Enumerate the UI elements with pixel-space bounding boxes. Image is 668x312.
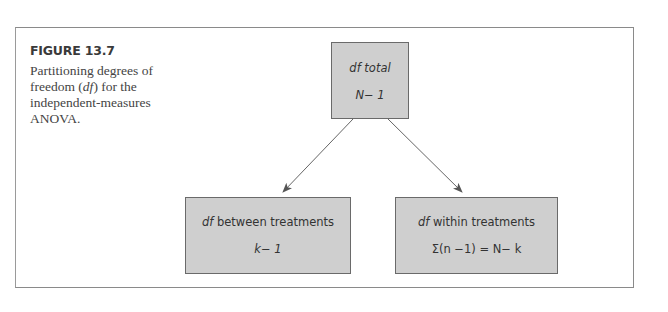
node-df-within: df within treatments Σ(n −1) = N− k: [395, 197, 558, 274]
node-df-between: df between treatments k− 1: [185, 197, 351, 274]
node-title: df within treatments: [396, 215, 557, 229]
node-title: df total: [332, 61, 408, 75]
df-symbol: df: [418, 215, 429, 229]
node-title-text: total: [361, 61, 391, 75]
formula-text: N− 1: [355, 88, 384, 102]
node-formula: N− 1: [332, 88, 408, 102]
node-title-text: within treatments: [429, 215, 535, 229]
df-symbol: df: [349, 61, 360, 75]
node-formula: Σ(n −1) = N− k: [396, 242, 557, 256]
node-formula: k− 1: [186, 242, 350, 256]
formula-text: Σ(n −1) = N− k: [432, 242, 522, 256]
node-title: df between treatments: [186, 215, 350, 229]
arrow-total-to-within: [388, 119, 462, 192]
formula-text: k− 1: [254, 242, 281, 256]
node-title-text: between treatments: [213, 215, 334, 229]
df-symbol: df: [202, 215, 213, 229]
arrow-total-to-between: [283, 119, 353, 192]
node-df-total: df total N− 1: [331, 42, 409, 119]
